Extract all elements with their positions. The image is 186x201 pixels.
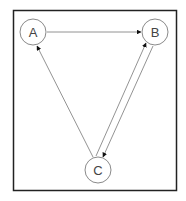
graph-diagram: A B C	[0, 0, 186, 201]
node-a-label: A	[29, 25, 38, 40]
node-a: A	[20, 19, 46, 45]
edge-b-to-c	[103, 46, 153, 157]
edge-c-to-a	[37, 46, 93, 157]
node-b: B	[142, 19, 168, 45]
node-c: C	[85, 157, 111, 183]
node-c-label: C	[93, 163, 102, 178]
edge-c-to-b	[96, 43, 146, 156]
node-b-label: B	[151, 25, 160, 40]
